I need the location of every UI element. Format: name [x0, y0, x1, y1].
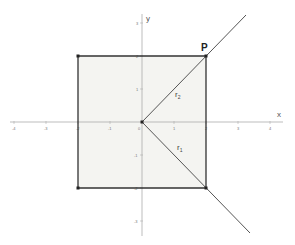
vertex-bottom-left	[77, 187, 80, 190]
vertex-top-left	[77, 55, 80, 58]
svg-text:-4: -4	[12, 126, 16, 131]
vertex-origin	[141, 121, 144, 124]
vertex-bottom-right	[205, 187, 208, 190]
point-label-P: P	[201, 42, 208, 53]
coordinate-diagram: -4 -3 -2 -1 0 1 2 3 4 3 2 1 -1 -2 -3 x y	[0, 0, 295, 245]
y-axis-label: y	[146, 14, 150, 23]
svg-text:-3: -3	[134, 219, 138, 224]
svg-text:3: 3	[136, 21, 139, 26]
diagram-canvas: -4 -3 -2 -1 0 1 2 3 4 3 2 1 -1 -2 -3 x y	[0, 0, 295, 245]
svg-text:-3: -3	[44, 126, 48, 131]
svg-text:3: 3	[237, 126, 240, 131]
vertex-top-right-P	[205, 55, 208, 58]
x-axis-label: x	[277, 110, 281, 119]
svg-text:4: 4	[269, 126, 272, 131]
